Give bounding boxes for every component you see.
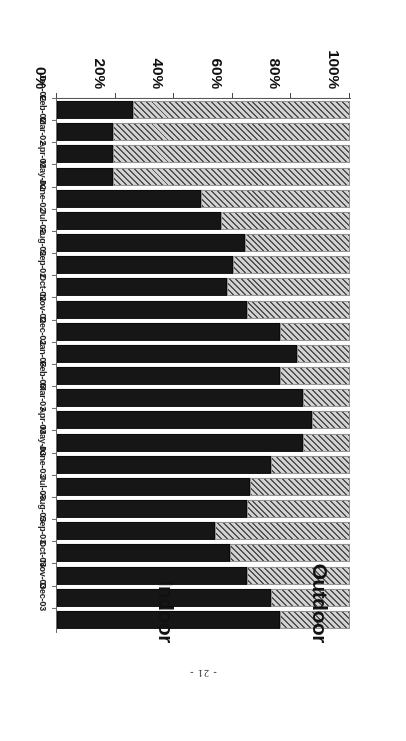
bar-segment-outdoor [227,278,350,296]
bar-row [57,411,350,429]
category-tick [52,275,57,276]
bar-segment-indoor [57,434,303,452]
bar-row [57,256,350,274]
category-tick [52,541,57,542]
value-tick-label: 100% [325,50,343,89]
bar-row [57,123,350,141]
category-tick [52,564,57,565]
category-tick [52,209,57,210]
bar-segment-outdoor [133,101,350,119]
bar-segment-outdoor [312,411,350,429]
bar-segment-outdoor [113,145,350,163]
bar-row [57,522,350,540]
bar-segment-outdoor [250,478,350,496]
bar-segment-indoor [57,278,227,296]
bar-segment-indoor [57,212,221,230]
bar-segment-outdoor [230,544,350,562]
bar-segment-indoor [57,367,280,385]
bar-row [57,234,350,252]
bar-row [57,611,350,629]
category-label: June-03 [38,445,48,478]
bar-segment-outdoor [221,212,350,230]
bar-segment-outdoor [247,567,350,585]
bar-segment-outdoor [280,323,350,341]
category-tick [52,608,57,609]
bar-row [57,456,350,474]
bar-row [57,345,350,363]
bar-segment-outdoor [233,256,350,274]
figure-caption: Figure 3-3.Indoor or Outdoor Tips of Dru… [2,0,14,30]
bar-segment-indoor [57,123,113,141]
category-label: Dec-03 [38,583,48,611]
bar-row [57,190,350,208]
category-tick [52,320,57,321]
category-tick [52,586,57,587]
category-tick [52,342,57,343]
bar-row [57,101,350,119]
bar-segment-outdoor [201,190,350,208]
category-tick [52,497,57,498]
value-axis-line [56,98,351,99]
value-tick-label: 60% [208,59,226,89]
series-label-indoor: Indoor [154,581,178,643]
bar-segment-outdoor [247,500,350,518]
printed-page: Figure 3-3.Indoor or Outdoor Tips of Dru… [0,0,406,741]
bar-row [57,567,350,585]
bar-row [57,323,350,341]
category-tick [52,187,57,188]
value-tick [290,93,291,99]
category-tick [52,98,57,99]
category-tick [52,120,57,121]
bar-segment-indoor [57,389,303,407]
bar-row [57,478,350,496]
bar-row [57,589,350,607]
value-tick-label: 40% [149,59,167,89]
value-tick-label: 80% [266,59,284,89]
bar-row [57,168,350,186]
bar-segment-outdoor [113,168,350,186]
category-label: June-02 [38,179,48,212]
category-tick [52,142,57,143]
value-tick [349,93,350,99]
bar-segment-indoor [57,256,233,274]
series-label-outdoor: Outdoor [308,564,332,643]
bar-segment-outdoor [303,434,350,452]
category-tick [52,364,57,365]
value-tick-label: 20% [91,59,109,89]
category-tick [52,519,57,520]
category-tick [52,165,57,166]
bar-segment-indoor [57,190,201,208]
category-tick [52,453,57,454]
bar-row [57,367,350,385]
bar-row [57,434,350,452]
bar-segment-indoor [57,567,247,585]
category-tick [52,298,57,299]
bar-segment-indoor [57,301,247,319]
bar-segment-outdoor [297,345,350,363]
value-tick [115,93,116,99]
bar-row [57,500,350,518]
page-folio: - 21 - [0,668,406,679]
bar-segment-indoor [57,500,247,518]
bar-row [57,389,350,407]
bar-row [57,212,350,230]
category-tick [52,431,57,432]
bar-segment-indoor [57,522,215,540]
bar-segment-indoor [57,345,297,363]
bar-row [57,278,350,296]
bar-segment-indoor [57,411,312,429]
bar-row [57,544,350,562]
category-tick [52,386,57,387]
bar-segment-outdoor [215,522,350,540]
category-tick [52,231,57,232]
bar-segment-indoor [57,101,133,119]
value-tick [173,93,174,99]
category-tick [52,408,57,409]
stacked-bar-chart: 0%20%40%60%80%100% Jan-02Feb-02Mar-02Apr… [57,99,350,631]
bar-segment-indoor [57,456,271,474]
bar-segment-indoor [57,544,230,562]
bar-segment-outdoor [303,389,350,407]
category-tick [52,253,57,254]
bar-row [57,145,350,163]
bar-segment-outdoor [245,234,350,252]
